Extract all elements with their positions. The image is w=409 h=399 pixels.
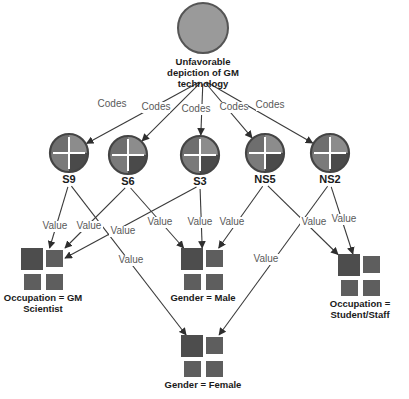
edge-label: Codes [220,101,249,112]
code-label: S9 [62,173,75,185]
code-node-s6[interactable]: S6 [109,136,147,187]
edge-label: Value [254,253,279,264]
root-label-line: Unfavorable [176,56,231,67]
root-node[interactable]: Unfavorabledepiction of GMtechnology [167,3,239,89]
attribute-label-line: Scientist [23,303,63,314]
attribute-node-male[interactable]: Gender = Male [170,248,235,303]
root-label-line: depiction of GM [167,67,239,78]
edge-label: Codes [182,103,211,114]
attribute-grid-icon [181,248,223,290]
attribute-node-gm-scientist[interactable]: Occupation = GMScientist [4,248,82,314]
edge-label: Value [148,216,173,227]
edge-label: Value [332,213,357,224]
node-layer: Unfavorabledepiction of GMtechnologyS9S6… [4,3,391,390]
code-label: S3 [193,175,206,187]
edge-label: Value [302,216,327,227]
edge-s6-to-gm-scientist [65,188,125,248]
attribute-node-student[interactable]: Occupation =Student/Staff [330,254,391,320]
attribute-label-line: Occupation = [330,298,391,309]
edge-label: Value [220,216,245,227]
code-node-ns2[interactable]: NS2 [311,134,349,185]
attribute-grid-icon [21,248,63,290]
attribute-grid-icon [181,335,223,377]
attribute-label-line: Gender = Male [170,292,235,303]
code-node-ns5[interactable]: NS5 [246,134,284,185]
root-circle-icon [178,3,228,53]
edge-label: Value [43,220,68,231]
code-label: NS5 [254,173,275,185]
attribute-label-line: Occupation = GM [4,292,82,303]
edge-label: Value [188,216,213,227]
edge-label: Codes [142,101,171,112]
code-node-s9[interactable]: S9 [50,134,88,185]
code-node-s3[interactable]: S3 [181,136,219,187]
edge-label: Value [119,254,144,265]
edge-label: Value [77,220,102,231]
attribute-label-line: Student/Staff [330,309,390,320]
edge-label: Value [111,225,136,236]
edge-label: Codes [98,98,127,109]
network-diagram: CodesCodesCodesCodesCodesValueValueValue… [0,0,409,399]
attribute-label-line: Gender = Female [165,379,242,390]
root-label-line: technology [178,78,229,89]
edge-label: Codes [256,99,285,110]
attribute-node-female[interactable]: Gender = Female [165,335,242,390]
edge-s9-to-gm-scientist [50,187,68,248]
code-label: NS2 [319,173,340,185]
attribute-grid-icon [338,254,380,296]
code-label: S6 [121,175,134,187]
